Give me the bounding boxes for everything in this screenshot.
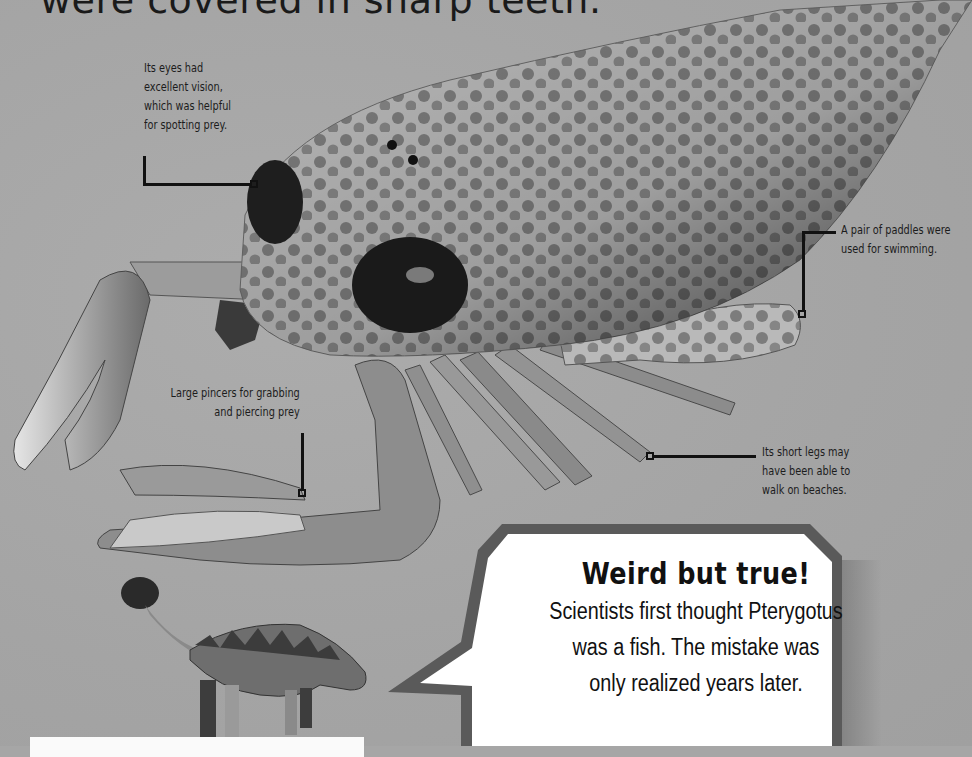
callout-marker-legs — [646, 452, 654, 460]
callout-legs-line: have been able to — [762, 461, 850, 480]
callout-paddles-line: A pair of paddles were — [841, 220, 950, 239]
callout-marker-pincers — [298, 489, 306, 497]
callout-eyes-line: for spotting prey. — [144, 115, 231, 134]
callout-pincers: Large pincers for grabbing and piercing … — [171, 383, 300, 421]
upper-pincer — [14, 262, 265, 470]
leader-line-legs — [654, 455, 756, 458]
callout-eyes-line: which was helpful — [144, 96, 231, 115]
leader-line-eyes — [143, 183, 251, 186]
callout-eyes-line: Its eyes had — [144, 58, 231, 77]
callout-pincers-line: and piercing prey — [171, 402, 300, 421]
bubble-body: Scientists first thought Pterygotus was … — [498, 593, 894, 701]
callout-legs-line: walk on beaches. — [762, 480, 850, 499]
info-card-top-edge — [30, 737, 364, 757]
callout-pincers-line: Large pincers for grabbing — [171, 383, 300, 402]
bubble-line: was a fish. The mistake was — [498, 629, 894, 665]
leader-line-paddles — [802, 231, 805, 311]
bubble-content: Weird but true! Scientists first thought… — [466, 556, 926, 701]
bubble-line: only realized years later. — [498, 665, 894, 701]
callout-legs-line: Its short legs may — [762, 442, 850, 461]
leader-line-eyes — [143, 156, 146, 186]
carapace — [240, 0, 972, 356]
callout-legs: Its short legs may have been able to wal… — [762, 442, 850, 499]
callout-paddles: A pair of paddles were used for swimming… — [841, 220, 950, 258]
ankylosaur-illustration — [121, 577, 366, 738]
callout-marker-paddles — [798, 310, 806, 318]
callout-eyes-line: excellent vision, — [144, 77, 231, 96]
leader-line-pincers — [301, 433, 304, 491]
bubble-heading: Weird but true! — [501, 556, 892, 591]
callout-marker-eyes — [250, 180, 258, 188]
callout-paddles-line: used for swimming. — [841, 239, 950, 258]
leader-line-paddles — [802, 231, 836, 234]
bubble-line: Scientists first thought Pterygotus — [498, 593, 894, 629]
callout-eyes: Its eyes had excellent vision, which was… — [144, 58, 231, 134]
